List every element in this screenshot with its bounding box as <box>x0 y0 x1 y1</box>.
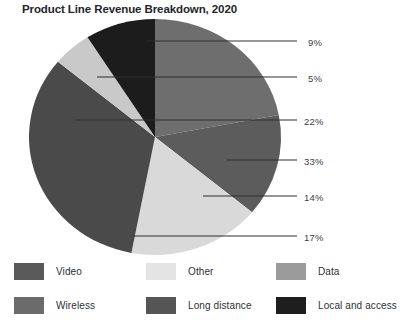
pie-chart-figure: Product Line Revenue Breakdown, 2020 9%5… <box>0 0 407 329</box>
legend-item-local-and-access[interactable]: Local and access <box>276 294 397 316</box>
legend-swatch-icon <box>276 263 306 280</box>
legend-swatch-icon <box>14 263 44 280</box>
legend-item-label: Other <box>188 266 214 277</box>
callout-percentage-label: 22% <box>304 116 324 127</box>
pie-slice-group <box>29 19 281 255</box>
chart-title: Product Line Revenue Breakdown, 2020 <box>22 3 237 15</box>
legend-item-data[interactable]: Data <box>276 260 340 282</box>
legend-swatch-icon <box>276 297 306 314</box>
legend-item-long-distance[interactable]: Long distance <box>146 294 252 316</box>
legend-item-label: Data <box>318 266 340 277</box>
legend-item-other[interactable]: Other <box>146 260 214 282</box>
legend-swatch-icon <box>146 297 176 314</box>
legend-item-video[interactable]: Video <box>14 260 82 282</box>
callout-percentage-label: 14% <box>304 192 324 203</box>
pie-plot-area: 9%5%22%33%14%17% <box>0 16 407 256</box>
legend-item-wireless[interactable]: Wireless <box>14 294 95 316</box>
legend-item-label: Wireless <box>56 300 95 311</box>
legend-row-1: Wireless Long distance Local and access <box>0 294 407 318</box>
callout-percentage-label: 5% <box>308 73 322 84</box>
legend-swatch-icon <box>146 263 176 280</box>
legend-item-label: Long distance <box>188 300 252 311</box>
callout-percentage-label: 33% <box>304 156 324 167</box>
callout-percentage-label: 17% <box>304 232 324 243</box>
legend-swatch-icon <box>14 297 44 314</box>
callout-percentage-label: 9% <box>308 37 322 48</box>
chart-legend: Video Other Data Wireless Long distance <box>0 258 407 326</box>
legend-item-label: Local and access <box>318 300 397 311</box>
legend-item-label: Video <box>56 266 82 277</box>
pie-svg <box>0 16 407 256</box>
legend-row-0: Video Other Data <box>0 260 407 284</box>
